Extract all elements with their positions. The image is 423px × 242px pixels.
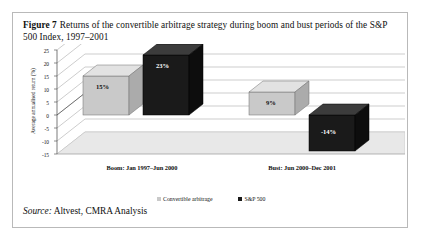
bar-label-boom-sp500: 23% [156, 62, 169, 69]
bar-label-bust-convertible: 9% [266, 99, 276, 106]
figure-caption: Figure 7Returns of the convertible arbit… [23, 19, 395, 43]
legend-item-convertible-arbitrage: Convertible arbitrage [157, 196, 213, 202]
figure-caption-text: Returns of the convertible arbitrage str… [23, 20, 387, 42]
bar-bust-convertible [249, 81, 309, 115]
bar-boom-sp500 [143, 44, 203, 115]
bar-label-bust-sp500: -14% [321, 128, 336, 135]
bar-label-boom-convertible: 15% [96, 83, 109, 90]
source-label: Source: [23, 206, 52, 216]
chart-3d-bar: Average annualised return (%) 25 20 15 1… [17, 44, 405, 194]
category-label-boom: Boom: Jan 1997–Jun 2000 [62, 164, 222, 171]
chart-legend: Convertible arbitrage S&P 500 [13, 196, 409, 202]
legend-swatch-icon-convertible [157, 197, 161, 201]
bar-bust-sp500 [309, 104, 369, 151]
category-label-bust: Bust: Jun 2000–Dec 2001 [222, 164, 382, 171]
legend-label-sp500: S&P 500 [244, 196, 265, 202]
plot-area [17, 44, 405, 194]
source-text: Altvest, CMRA Analysis [54, 206, 148, 216]
legend-item-sp500: S&P 500 [238, 196, 265, 202]
legend-label-convertible: Convertible arbitrage [163, 196, 212, 202]
figure-number: Figure 7 [23, 20, 57, 30]
legend-swatch-icon-sp500 [238, 197, 242, 201]
figure-frame: Figure 7Returns of the convertible arbit… [12, 12, 408, 228]
source-line: Source: Altvest, CMRA Analysis [23, 206, 147, 216]
bar-boom-convertible [83, 65, 143, 115]
